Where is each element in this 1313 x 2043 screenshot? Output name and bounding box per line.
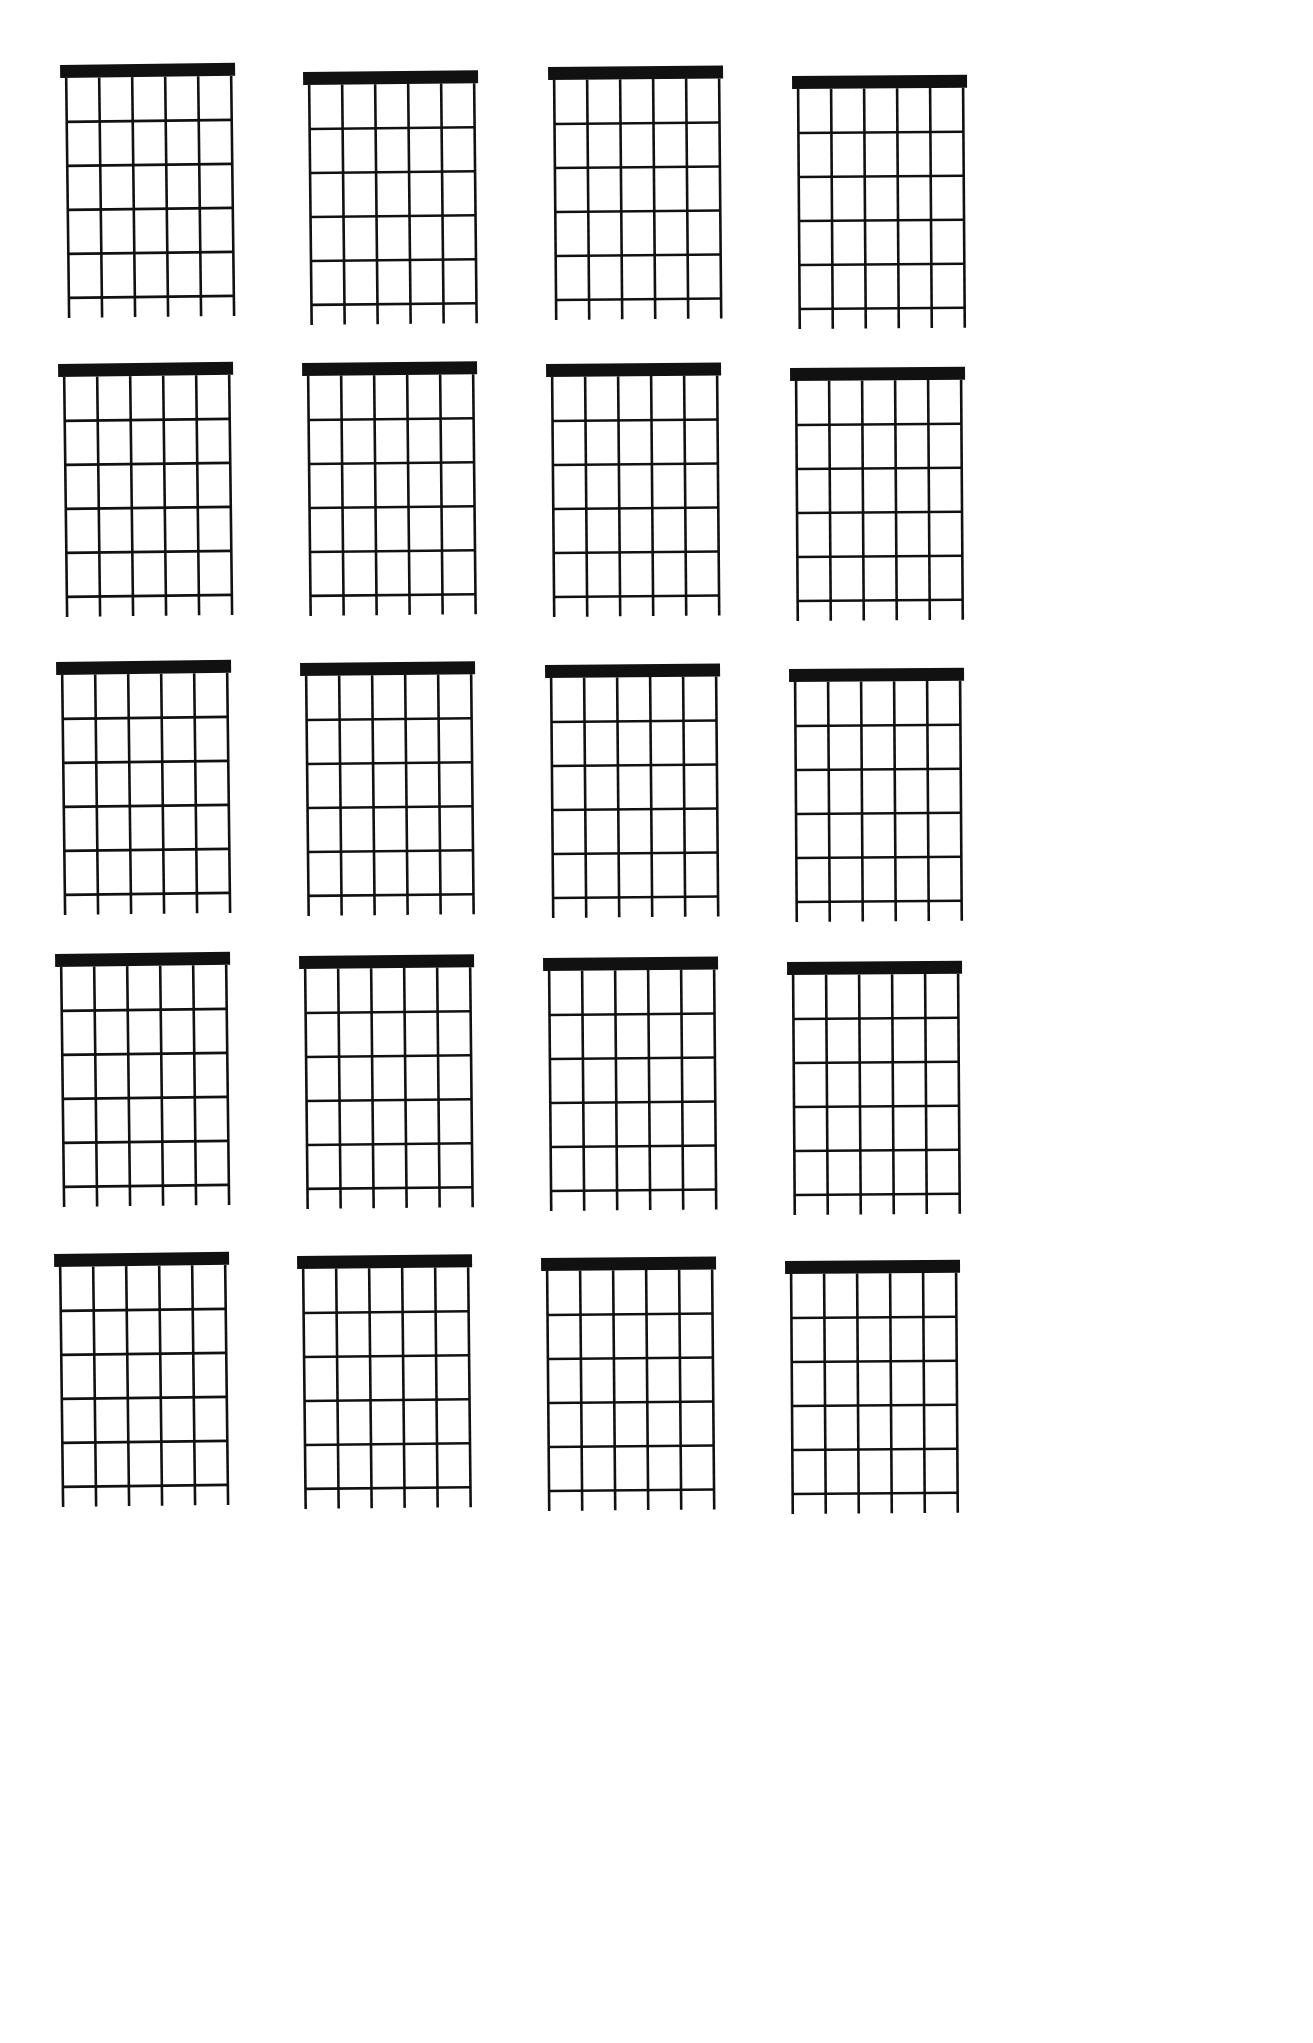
fret-line-4 xyxy=(64,849,229,851)
string-line-6 xyxy=(306,676,309,916)
nut-bar xyxy=(54,1252,229,1267)
fret-line-4 xyxy=(553,853,718,854)
fret-line-1 xyxy=(552,721,717,722)
chord-diagram[interactable] xyxy=(302,359,486,622)
string-line-2 xyxy=(686,79,688,319)
nut-bar xyxy=(546,362,721,377)
fret-line-5 xyxy=(308,894,473,896)
fret-line-1 xyxy=(304,1311,469,1313)
string-line-5 xyxy=(339,676,342,916)
string-line-2 xyxy=(927,681,929,921)
fret-line-5 xyxy=(800,308,965,309)
fret-line-1 xyxy=(61,1309,226,1311)
string-line-1 xyxy=(470,967,473,1207)
fret-line-5 xyxy=(64,1185,229,1187)
string-line-4 xyxy=(126,1266,129,1506)
fret-line-1 xyxy=(306,1011,471,1013)
string-line-2 xyxy=(196,375,199,615)
nut-bar xyxy=(789,668,964,682)
string-line-2 xyxy=(435,1268,438,1508)
string-line-2 xyxy=(928,380,930,620)
chord-diagram[interactable] xyxy=(297,1252,481,1515)
string-line-5 xyxy=(584,678,586,918)
string-line-2 xyxy=(684,376,686,616)
chord-diagram[interactable] xyxy=(792,73,975,335)
chord-diagram[interactable] xyxy=(541,1254,724,1517)
string-line-4 xyxy=(864,88,866,328)
fret-line-1 xyxy=(62,1009,227,1011)
string-line-3 xyxy=(160,966,163,1206)
string-line-3 xyxy=(161,674,164,914)
string-line-6 xyxy=(795,682,797,922)
chord-diagram[interactable] xyxy=(54,1250,238,1513)
chord-diagram[interactable] xyxy=(60,61,244,324)
string-line-6 xyxy=(303,1269,306,1509)
fret-line-3 xyxy=(799,220,964,221)
string-line-6 xyxy=(793,975,795,1215)
string-line-1 xyxy=(714,970,716,1210)
string-line-1 xyxy=(473,374,476,614)
chord-diagram[interactable] xyxy=(545,661,728,924)
chord-diagram[interactable] xyxy=(300,659,484,922)
fret-line-5 xyxy=(307,1187,472,1189)
chord-diagram[interactable] xyxy=(58,360,242,623)
chord-diagram-canvas xyxy=(56,658,240,921)
string-line-1 xyxy=(471,674,474,914)
chord-diagram[interactable] xyxy=(546,360,729,623)
fret-line-4 xyxy=(63,1141,228,1143)
fret-line-5 xyxy=(63,1485,228,1487)
chord-diagram-canvas xyxy=(54,1250,238,1513)
fret-line-4 xyxy=(308,850,473,852)
chord-diagram[interactable] xyxy=(785,1258,968,1520)
string-line-5 xyxy=(828,682,830,922)
fret-line-5 xyxy=(798,600,963,601)
fret-line-1 xyxy=(793,1018,958,1019)
string-line-1 xyxy=(717,376,719,616)
chord-diagram[interactable] xyxy=(543,954,726,1217)
fret-line-3 xyxy=(792,1405,957,1406)
nut-bar xyxy=(299,954,474,969)
chord-diagram-canvas xyxy=(299,952,483,1215)
string-line-1 xyxy=(712,1270,714,1510)
fret-line-5 xyxy=(69,296,234,298)
fret-lines xyxy=(550,1014,717,1191)
fret-line-4 xyxy=(66,551,231,553)
fret-line-5 xyxy=(311,303,476,305)
nut-bar xyxy=(297,1254,472,1269)
string-lines xyxy=(549,970,716,1211)
string-lines xyxy=(62,673,230,915)
fret-line-2 xyxy=(62,1053,227,1055)
fret-line-3 xyxy=(550,1102,715,1103)
fret-lines xyxy=(548,1314,715,1491)
fret-line-3 xyxy=(310,506,475,508)
nut-bar xyxy=(55,952,230,967)
fret-line-2 xyxy=(65,463,230,465)
chord-diagram[interactable] xyxy=(55,950,239,1213)
fret-line-1 xyxy=(63,717,228,719)
fret-line-1 xyxy=(67,120,232,122)
string-line-3 xyxy=(165,77,168,317)
chord-diagram[interactable] xyxy=(299,952,483,1215)
string-lines xyxy=(793,974,960,1215)
fret-line-2 xyxy=(307,762,472,764)
fret-lines xyxy=(309,418,476,596)
string-line-1 xyxy=(229,375,232,615)
fret-line-4 xyxy=(554,552,719,553)
fret-line-2 xyxy=(548,1358,713,1359)
string-line-6 xyxy=(64,377,67,617)
fret-line-2 xyxy=(310,171,475,173)
string-lines xyxy=(303,1267,471,1509)
chord-diagram[interactable] xyxy=(790,365,973,627)
string-line-6 xyxy=(552,377,554,617)
fret-line-3 xyxy=(68,208,233,210)
string-line-4 xyxy=(615,970,617,1210)
chord-diagram[interactable] xyxy=(56,658,240,921)
chord-diagram[interactable] xyxy=(548,63,731,326)
chord-diagram[interactable] xyxy=(303,68,487,331)
fret-line-4 xyxy=(305,1443,470,1445)
fret-line-4 xyxy=(311,259,476,261)
chord-diagram[interactable] xyxy=(787,959,970,1221)
chord-diagram[interactable] xyxy=(789,666,972,928)
fret-line-3 xyxy=(63,1097,228,1099)
fret-line-5 xyxy=(551,1189,716,1190)
